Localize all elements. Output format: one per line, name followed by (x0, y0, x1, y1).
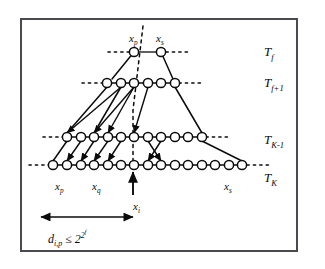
node-TK1-1 (76, 132, 85, 141)
node-TK-0 (48, 160, 57, 169)
node-TK1-10 (197, 132, 206, 141)
node-Tf1-4 (156, 78, 165, 87)
node-TK-14 (237, 160, 246, 169)
node-label-xq-bottom: xq (92, 181, 101, 195)
node-TK-1 (62, 160, 71, 169)
edge-tf1-right-long (175, 87, 202, 133)
node-TK1-6 (143, 132, 152, 141)
node-Tf1-0 (102, 78, 111, 87)
node-TK-5 (116, 160, 125, 169)
arrow-down-g (94, 141, 108, 161)
node-label-xs-top: xs (156, 33, 164, 47)
node-TK1-8 (170, 132, 179, 141)
node-TK-10 (183, 160, 192, 169)
arrow-down-a (67, 87, 121, 133)
node-TK-2 (76, 160, 85, 169)
node-label-xp-bottom: xp (55, 181, 64, 195)
node-TK-7 (143, 160, 152, 169)
arrow-down-e (67, 141, 81, 161)
node-TK-12 (210, 160, 219, 169)
edge-tk1-left-down (53, 141, 67, 161)
node-TK-13 (224, 160, 233, 169)
level-label-tf1: Tf+1 (264, 76, 284, 92)
node-label-xs-bottom: xs (224, 181, 232, 195)
node-Tf-1 (156, 47, 165, 56)
edge-tf1-mid-long (94, 87, 121, 133)
node-TK-4 (103, 160, 112, 169)
node-Tf-0 (129, 47, 138, 56)
arrow-down-d (134, 87, 148, 133)
node-TK-6 (129, 160, 138, 169)
node-TK1-9 (183, 132, 192, 141)
node-TK-9 (170, 160, 179, 169)
arrow-down-b (94, 87, 134, 133)
row-lines-layer (53, 52, 242, 165)
node-TK-11 (197, 160, 206, 169)
node-Tf1-3 (143, 78, 152, 87)
node-TK1-2 (89, 132, 98, 141)
arrow-down-h (108, 141, 121, 161)
node-TK1-0 (62, 132, 71, 141)
node-Tf1-2 (129, 78, 138, 87)
edge-tf1-left-long (67, 87, 107, 133)
edge-tk1-right-down (202, 141, 242, 161)
node-TK1-3 (103, 132, 112, 141)
node-label-xi-arrow: xi (133, 201, 140, 215)
node-label-xp-top: xp (129, 33, 138, 47)
node-Tf1-1 (116, 78, 125, 87)
trapezoid-edges-layer (53, 52, 242, 161)
distance-constraint: di,p ≤ 22f (48, 230, 86, 248)
level-label-tk: TK (264, 171, 277, 187)
nodes-layer (48, 47, 246, 169)
node-TK1-5 (129, 132, 138, 141)
node-TK1-7 (156, 132, 165, 141)
level-label-tf: Tf (264, 45, 274, 61)
node-TK1-4 (116, 132, 125, 141)
row-dashes-layer (29, 52, 270, 165)
arrow-down-f (81, 141, 94, 161)
level-label-tk1: TK-1 (264, 133, 284, 149)
node-Tf1-5 (170, 78, 179, 87)
node-TK-3 (89, 160, 98, 169)
node-TK-8 (156, 160, 165, 169)
